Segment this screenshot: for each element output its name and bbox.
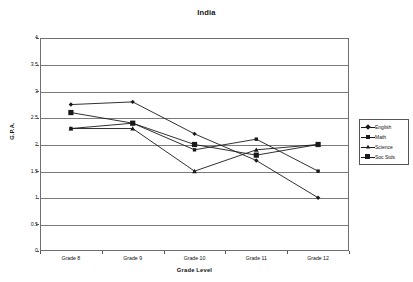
x-tick-label: Grade 11 <box>228 255 284 261</box>
y-tick-mark <box>36 65 39 66</box>
y-tick-label: 3 <box>16 89 38 94</box>
data-point <box>254 158 258 162</box>
legend-marker-icon <box>361 143 375 151</box>
legend-label: English <box>375 124 391 130</box>
legend-label: Soc Stds <box>375 154 395 160</box>
series-line <box>71 123 318 171</box>
data-point <box>316 169 319 172</box>
legend-marker-icon <box>361 133 375 141</box>
y-axis-ticks: 00.511.522.533.54 <box>10 38 38 251</box>
x-tick-label: Grade 9 <box>105 255 161 261</box>
data-point <box>130 121 135 126</box>
data-point <box>316 196 320 200</box>
y-tick-mark <box>36 171 39 172</box>
chart-container: India G.P.A. 00.511.522.533.54 Grade 8Gr… <box>0 0 413 282</box>
data-point <box>316 142 321 147</box>
y-tick-label: 2.5 <box>16 115 38 120</box>
y-tick-label: 4 <box>16 35 38 40</box>
series-layer <box>40 38 349 251</box>
y-tick-label: 1 <box>16 195 38 200</box>
x-tick-mark <box>164 251 165 254</box>
data-point <box>254 153 259 158</box>
y-tick-label: 2 <box>16 142 38 147</box>
y-tick-mark <box>36 198 39 199</box>
data-point <box>192 142 197 147</box>
y-tick-mark <box>36 251 39 252</box>
x-tick-mark <box>287 251 288 254</box>
chart-legend: EnglishMathScienceSoc Stds <box>359 119 409 165</box>
legend-item[interactable]: English <box>361 122 406 132</box>
y-tick-mark <box>36 145 39 146</box>
x-tick-mark <box>349 251 350 254</box>
data-point <box>131 100 135 104</box>
legend-item[interactable]: Science <box>361 142 406 152</box>
x-tick-mark <box>40 251 41 254</box>
legend-label: Math <box>375 134 386 140</box>
legend-item[interactable]: Math <box>361 132 406 142</box>
chart-title: India <box>0 8 413 17</box>
legend-label: Science <box>375 144 393 150</box>
legend-marker-icon <box>361 153 375 161</box>
x-tick-label: Grade 10 <box>167 255 223 261</box>
data-point <box>69 102 73 106</box>
x-axis-labels: Grade 8Grade 9Grade 10Grade 11Grade 12 <box>40 255 349 267</box>
y-tick-label: 3.5 <box>16 62 38 67</box>
x-tick-mark <box>102 251 103 254</box>
data-point <box>192 132 196 136</box>
x-tick-label: Grade 8 <box>43 255 99 261</box>
data-point <box>68 110 73 115</box>
x-tick-mark <box>225 251 226 254</box>
y-tick-mark <box>36 38 39 39</box>
legend-marker-icon <box>361 123 375 131</box>
legend-item[interactable]: Soc Stds <box>361 152 406 162</box>
y-tick-label: 1.5 <box>16 169 38 174</box>
y-tick-label: 0.5 <box>16 222 38 227</box>
y-tick-label: 0 <box>16 248 38 253</box>
x-axis-title: Grade Level <box>40 267 349 273</box>
data-point <box>193 148 196 151</box>
y-tick-mark <box>36 91 39 92</box>
y-tick-mark <box>36 118 39 119</box>
x-tick-label: Grade 12 <box>290 255 346 261</box>
y-tick-mark <box>36 224 39 225</box>
data-point <box>255 137 258 140</box>
